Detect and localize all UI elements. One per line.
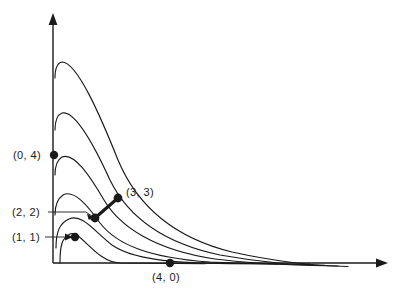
level-curve-6 xyxy=(55,62,348,267)
point-group xyxy=(50,151,174,267)
point-dot-2-2[interactable] xyxy=(91,214,100,223)
point-label-1-1: (1, 1) xyxy=(12,231,40,243)
horizontal-axis-arrow-icon xyxy=(376,259,388,268)
point-dot-1-1[interactable] xyxy=(71,233,79,241)
point-dot-0-4[interactable] xyxy=(50,151,58,159)
point-label-2-2: (2, 2) xyxy=(12,206,40,218)
level-curve-4 xyxy=(55,156,325,265)
vertical-axis-arrow-icon xyxy=(49,13,58,25)
axes-group xyxy=(49,13,388,267)
indifference-curve-figure: (0, 4) (2, 2) (1, 1) (3, 3) (4, 0) xyxy=(0,0,402,297)
point-label-3-3: (3, 3) xyxy=(126,186,154,198)
point-label-0-4: (0, 4) xyxy=(13,149,41,161)
level-curve-group xyxy=(55,62,348,267)
point-dot-4-0[interactable] xyxy=(166,259,174,267)
point-label-4-0: (4, 0) xyxy=(152,271,180,283)
point-dot-3-3[interactable] xyxy=(114,194,123,203)
